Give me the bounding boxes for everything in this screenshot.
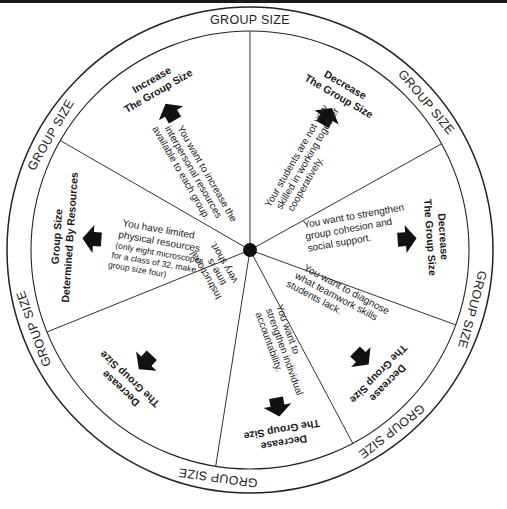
- ring-label-top: GROUP SIZE: [210, 13, 290, 27]
- center-hub: [243, 243, 257, 257]
- group-size-wheel: GROUP SIZE GROUP SIZE GROUP SIZE GROUP S…: [0, 0, 507, 509]
